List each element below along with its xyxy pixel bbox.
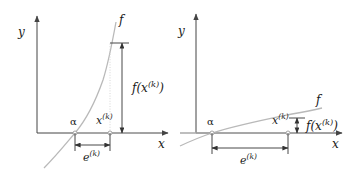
left-error-label-superscript: (k)	[90, 149, 100, 158]
left-alpha-label: α	[70, 117, 77, 127]
right-curve-label: f	[316, 94, 320, 106]
left-y-axis-label: y	[18, 26, 25, 38]
right-residual-label-tail: )	[333, 119, 338, 133]
right-function-curve	[180, 108, 322, 146]
left-error-label: e(k)	[83, 150, 100, 163]
right-xk-label-superscript: (k)	[278, 112, 288, 121]
right-residual-label-superscript: (k)	[322, 117, 333, 127]
left-curve-label: f	[119, 14, 123, 26]
right-error-label: e(k)	[240, 153, 257, 166]
left-xk-label-superscript: (k)	[102, 112, 112, 121]
left-residual-label: f(x(k))	[132, 80, 164, 94]
left-residual-label-base: f(x	[132, 81, 148, 95]
right-residual-label: f(x(k))	[306, 118, 338, 132]
left-x-axis-label: x	[158, 138, 165, 150]
right-xk-label: x(k)	[272, 113, 289, 126]
figure-root: y x f α x(k) e(k) f(x(k)) y x f α x(k) e…	[0, 0, 358, 172]
right-y-axis-label: y	[178, 25, 185, 37]
right-alpha-label: α	[207, 117, 214, 127]
left-xk-label: x(k)	[96, 113, 113, 126]
right-residual-label-base: f(x	[306, 119, 322, 133]
right-panel-graphics	[180, 14, 342, 154]
left-function-curve	[44, 22, 116, 168]
right-x-axis-label: x	[332, 138, 339, 150]
left-residual-label-tail: )	[159, 81, 164, 95]
right-error-label-superscript: (k)	[247, 152, 257, 161]
left-residual-label-superscript: (k)	[148, 79, 159, 89]
